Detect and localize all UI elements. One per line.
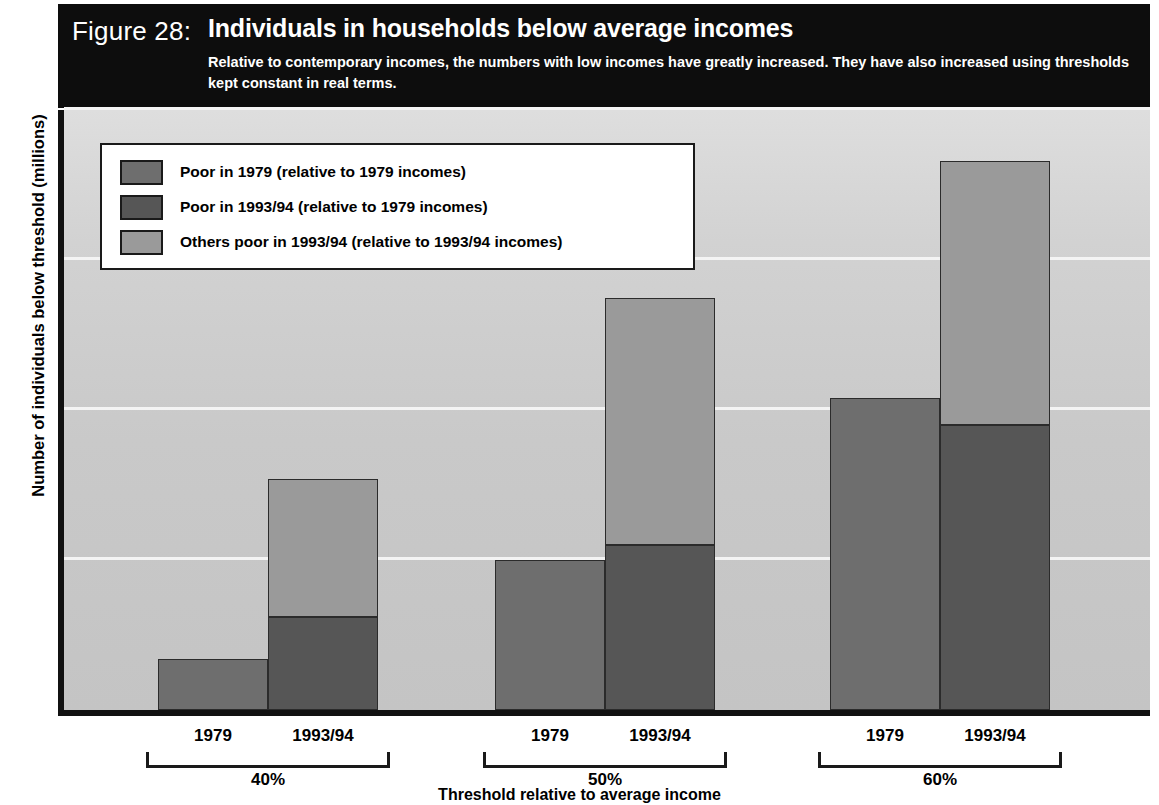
bar-50pct-1993-94 xyxy=(605,298,715,711)
x-axis-title: Threshold relative to average income xyxy=(0,786,1159,804)
legend-item-label: Poor in 1979 (relative to 1979 incomes) xyxy=(180,163,466,181)
bar-40pct-1979 xyxy=(158,659,268,710)
legend-item: Poor in 1993/94 (relative to 1979 income… xyxy=(120,192,488,222)
group-bracket xyxy=(818,752,1062,768)
figure-28-chart: Figure 28: Individuals in households bel… xyxy=(0,0,1159,805)
title-banner: Figure 28: Individuals in households bel… xyxy=(58,4,1150,108)
bar-segment xyxy=(158,659,268,710)
bar-segment xyxy=(268,479,378,617)
bar-segment xyxy=(605,545,715,710)
bar-segment xyxy=(940,161,1050,425)
legend: Poor in 1979 (relative to 1979 incomes)P… xyxy=(100,143,695,270)
plot-area: Poor in 1979 (relative to 1979 incomes)P… xyxy=(58,110,1150,716)
x-tick-1993-94: 1993/94 xyxy=(629,726,690,746)
gridline-20 xyxy=(64,107,1150,110)
legend-item-label: Others poor in 1993/94 (relative to 1993… xyxy=(180,233,563,251)
x-tick-1979: 1979 xyxy=(531,726,569,746)
bar-40pct-1993-94 xyxy=(268,479,378,710)
page-title: Individuals in households below average … xyxy=(208,14,793,43)
bar-segment xyxy=(495,560,605,710)
x-tick-1993-94: 1993/94 xyxy=(964,726,1025,746)
bar-segment xyxy=(605,298,715,546)
group-bracket xyxy=(483,752,727,768)
legend-swatch-icon xyxy=(120,230,163,255)
bar-60pct-1979 xyxy=(830,398,940,710)
bar-segment xyxy=(940,425,1050,710)
bar-60pct-1993-94 xyxy=(940,161,1050,710)
bar-segment xyxy=(830,398,940,710)
group-bracket xyxy=(146,752,390,768)
y-axis-title: Number of individuals below threshold (m… xyxy=(29,6,48,606)
legend-swatch-icon xyxy=(120,160,163,185)
figure-subtitle: Relative to contemporary incomes, the nu… xyxy=(208,52,1138,94)
bar-50pct-1979 xyxy=(495,560,605,710)
x-tick-1979: 1979 xyxy=(866,726,904,746)
x-tick-1979: 1979 xyxy=(194,726,232,746)
legend-item-label: Poor in 1993/94 (relative to 1979 income… xyxy=(180,198,488,216)
x-tick-1993-94: 1993/94 xyxy=(292,726,353,746)
legend-swatch-icon xyxy=(120,195,163,220)
legend-item: Poor in 1979 (relative to 1979 incomes) xyxy=(120,157,466,187)
legend-item: Others poor in 1993/94 (relative to 1993… xyxy=(120,227,563,257)
bar-segment xyxy=(268,617,378,710)
figure-number-label: Figure 28: xyxy=(72,16,191,47)
